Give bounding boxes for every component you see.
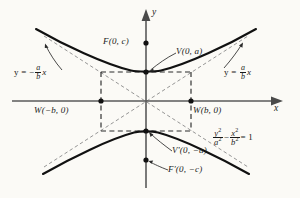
vertex-lower-label: V′(0, −a) — [172, 146, 207, 155]
vertex-upper-point — [143, 69, 148, 74]
leader-focus-lower — [150, 162, 168, 170]
x-axis-label: x — [274, 104, 278, 114]
focus-lower-point — [143, 157, 148, 162]
focus-lower-label: F′(0, −c) — [168, 165, 202, 174]
w-left-point — [98, 98, 103, 103]
w-right-label: W(b, 0) — [193, 106, 221, 115]
w-right-point — [188, 98, 193, 103]
y-axis-label: y — [152, 8, 156, 18]
asymptote-left-denominator: b — [35, 72, 41, 81]
asymptote-right-equation: y = abx — [224, 64, 251, 81]
asymptote-right-suffix: x — [247, 68, 251, 77]
hyperbola-canvas — [0, 0, 300, 198]
leader-asymptote-left-head — [45, 44, 49, 49]
vertex-upper-label: V(0, a) — [176, 47, 202, 56]
equation-term1-denominator: a2 — [213, 137, 223, 147]
asymptote-right-prefix: y = — [224, 68, 236, 77]
equation-operator: − — [224, 133, 229, 142]
asymptote-right-fraction: ab — [240, 64, 246, 81]
asymptote-left-numerator: a — [35, 64, 41, 72]
asymptote-left-prefix: y = − — [14, 68, 34, 77]
focus-upper-point — [143, 40, 148, 45]
asymptote-right-numerator: a — [240, 64, 246, 72]
equation-term2-denominator: b2 — [230, 137, 240, 147]
y-axis-arrowhead — [142, 9, 151, 21]
equation-term1: y2a2 — [213, 129, 223, 147]
equation-equals: = 1 — [241, 133, 253, 142]
asymptote-left-equation: y = −abx — [14, 64, 47, 81]
focus-upper-label: F(0, c) — [103, 37, 129, 46]
asymptote-left-suffix: x — [42, 68, 46, 77]
asymptote-right-denominator: b — [240, 72, 246, 81]
equation-term1-den-exponent: 2 — [218, 136, 221, 142]
equation-term2: x2b2 — [230, 129, 240, 147]
vertex-lower-point — [143, 128, 148, 133]
leader-asymptote-left — [46, 45, 63, 70]
equation-term1-num-exponent: 2 — [218, 127, 221, 133]
conic-equation: y2a2−x2b2= 1 — [212, 129, 253, 147]
asymptote-left-fraction: ab — [35, 64, 41, 81]
w-left-label: W(−b, 0) — [34, 106, 69, 115]
hyperbola-figure: y x F(0, c) V(0, a) W(−b, 0) W(b, 0) V′(… — [0, 0, 300, 198]
leader-vertex-upper-head — [149, 68, 154, 71]
equation-term2-den-exponent: 2 — [235, 136, 238, 142]
equation-term2-num-exponent: 2 — [235, 127, 238, 133]
